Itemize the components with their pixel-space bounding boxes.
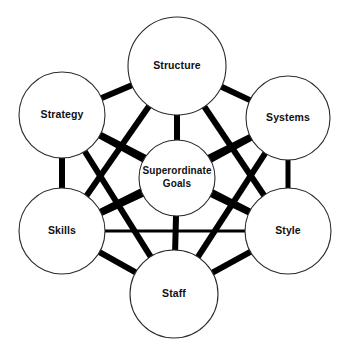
connector-strategy-to-structure: [101, 85, 132, 98]
node-label-skills: Skills: [48, 224, 76, 236]
node-label-staff: Staff: [162, 287, 186, 299]
diagram-canvas: StructureStrategySystemsSuperordinateGoa…: [0, 0, 347, 358]
node-label-style: Style: [275, 224, 301, 236]
connector-skills-to-staff: [99, 252, 136, 273]
node-skills[interactable]: Skills: [19, 188, 105, 274]
node-strategy[interactable]: Strategy: [19, 72, 105, 158]
node-style[interactable]: Style: [245, 188, 331, 274]
node-label-systems: Systems: [266, 111, 310, 123]
node-label-superordinate-goals: Goals: [163, 178, 192, 189]
connector-staff-to-style: [212, 252, 251, 273]
node-systems[interactable]: Systems: [246, 76, 330, 160]
node-label-superordinate-goals: Superordinate: [142, 165, 211, 176]
connector-staff-to-superordinate-goals: [175, 215, 176, 250]
node-staff[interactable]: Staff: [130, 250, 218, 338]
node-superordinate-goals[interactable]: SuperordinateGoals: [139, 140, 215, 216]
connector-structure-to-systems: [221, 87, 251, 101]
node-label-structure: Structure: [153, 59, 201, 71]
node-label-strategy: Strategy: [41, 108, 84, 120]
seven-s-framework-diagram: StructureStrategySystemsSuperordinateGoa…: [0, 0, 347, 358]
node-structure[interactable]: Structure: [128, 17, 226, 115]
nodes-group: StructureStrategySystemsSuperordinateGoa…: [19, 17, 331, 338]
